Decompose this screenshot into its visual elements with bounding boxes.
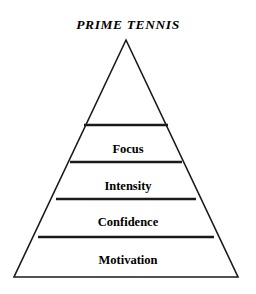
pyramid-outline (14, 40, 238, 277)
pyramid-tier-label-confidence: Confidence (0, 215, 256, 229)
pyramid-tier-label-intensity: Intensity (0, 179, 256, 193)
pyramid-tier-label-focus: Focus (0, 142, 256, 156)
pyramid-diagram: PRIME TENNIS Focus Intensity Confidence … (0, 0, 256, 294)
pyramid-tier-label-motivation: Motivation (0, 253, 256, 267)
